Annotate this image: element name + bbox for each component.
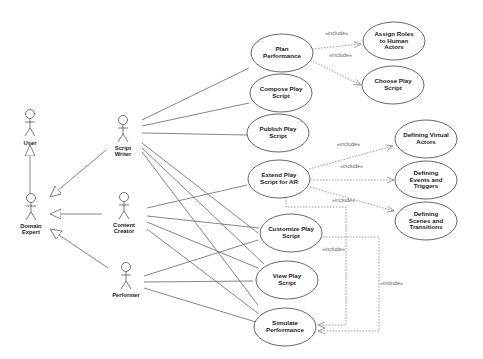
actor-domain-expert-icon bbox=[26, 194, 36, 221]
include-label-extend-to-simulate: «include» bbox=[322, 246, 345, 252]
include-label-defining-events-triggers: «include» bbox=[340, 163, 363, 169]
use-case-label-defining-events-triggers: Defining Events and Triggers bbox=[409, 170, 442, 190]
actor-content-creator-icon bbox=[119, 193, 129, 220]
associations-performer bbox=[144, 240, 258, 322]
use-case-label-defining-scenes-transitions: Defining Scenes and Transitions bbox=[409, 211, 443, 231]
associations-script-writer bbox=[142, 68, 264, 305]
associations-content-creator bbox=[147, 185, 259, 314]
use-case-label-simulate-performance: Simulate Performance bbox=[266, 320, 304, 333]
actor-label-user: User bbox=[24, 140, 37, 146]
use-case-label-view-play-script: View Play Script bbox=[273, 273, 301, 286]
use-case-label-plan-performance: Plan Performance bbox=[263, 46, 301, 59]
include-label-customize-to-simulate: «include» bbox=[380, 280, 403, 286]
actor-performer-icon bbox=[121, 263, 131, 290]
use-case-label-choose-play-script: Choose Play Script bbox=[374, 78, 411, 91]
include-label-assign-roles: «include» bbox=[325, 30, 348, 36]
actor-script-writer-icon bbox=[118, 116, 128, 143]
use-case-label-defining-virtual-actors: Defining Virtual Actors bbox=[403, 132, 449, 145]
actor-label-performer: Performer bbox=[112, 292, 140, 298]
use-case-label-assign-roles: Assign Roles to Human Actors bbox=[374, 31, 413, 51]
actor-label-content-creator: Content Creator bbox=[113, 222, 135, 235]
actor-user-icon bbox=[25, 110, 35, 137]
use-case-diagram: Plan Performance Compose Play Script Pub… bbox=[0, 0, 483, 359]
actor-label-script-writer: Script Writer bbox=[115, 145, 132, 158]
use-case-label-publish-play-script: Publish Play Script bbox=[260, 126, 297, 139]
actor-label-domain-expert: Domain Expert bbox=[20, 223, 41, 236]
include-label-choose-play-script: «include» bbox=[329, 52, 352, 58]
include-label-defining-virtual-actors: «include» bbox=[337, 141, 360, 147]
use-case-label-customize-play-script: Customize Play Script bbox=[268, 226, 314, 239]
actor-figures bbox=[25, 110, 131, 290]
use-case-label-extend-play-script-ar: Extend Play Script for AR bbox=[260, 172, 298, 185]
use-case-label-compose-play-script: Compose Play Script bbox=[260, 86, 303, 99]
include-label-defining-scenes-transitions: «include» bbox=[332, 197, 355, 203]
generalizations bbox=[30, 145, 108, 268]
